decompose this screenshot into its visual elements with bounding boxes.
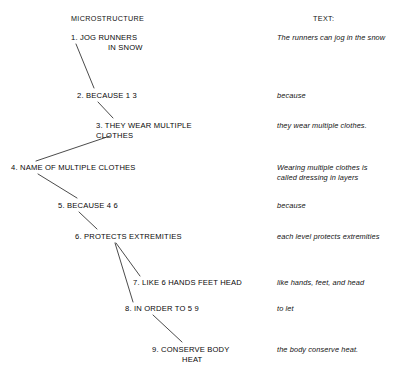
edge-4-5 <box>38 174 77 198</box>
node-9: 9. CONSERVE BODYHEAT <box>152 345 229 364</box>
node-8: 8. IN ORDER TO 5 9 <box>125 304 199 314</box>
node-6: 6. PROTECTS EXTREMITIES <box>75 232 182 242</box>
node-3-label-line2: CLOTHES <box>96 131 192 141</box>
node-4-label: 4. NAME OF MULTIPLE CLOTHES <box>11 163 136 172</box>
node-1-label-line2: IN SNOW <box>71 43 143 53</box>
node-5-label: 5. BECAUSE 4 6 <box>58 201 118 210</box>
node-1-label: 1. JOG RUNNERS <box>71 33 137 42</box>
gloss-7: like hands, feet, and head <box>277 278 364 288</box>
gloss-1-line1: The runners can jog in the snow <box>277 33 385 42</box>
edge-6-7 <box>116 243 140 276</box>
node-2-label: 2. BECAUSE 1 3 <box>77 91 137 100</box>
gloss-2: because <box>277 91 306 101</box>
node-9-label: 9. CONSERVE BODY <box>152 345 229 354</box>
gloss-1: The runners can jog in the snow <box>277 33 385 43</box>
node-9-label-line2: HEAT <box>152 355 229 365</box>
gloss-4: Wearing multiple clothes iscalled dressi… <box>277 163 367 183</box>
gloss-9: the body conserve heat. <box>277 345 358 355</box>
node-7: 7. LIKE 6 HANDS FEET HEAD <box>133 278 242 288</box>
node-3-label: 3. THEY WEAR MULTIPLE <box>96 121 192 130</box>
node-4: 4. NAME OF MULTIPLE CLOTHES <box>11 163 136 173</box>
node-2: 2. BECAUSE 1 3 <box>77 91 137 101</box>
microstructure-diagram: MICROSTRUCTURE TEXT: 1. JOG RUNNERSIN SN… <box>0 0 402 379</box>
gloss-7-line1: like hands, feet, and head <box>277 278 364 287</box>
node-5: 5. BECAUSE 4 6 <box>58 201 118 211</box>
gloss-4-line2: called dressing in layers <box>277 173 358 182</box>
gloss-2-line1: because <box>277 91 306 100</box>
gloss-6: each level protects extremities <box>277 232 380 242</box>
node-8-label: 8. IN ORDER TO 5 9 <box>125 304 199 313</box>
edge-5-6 <box>79 212 97 229</box>
node-3: 3. THEY WEAR MULTIPLECLOTHES <box>96 121 192 140</box>
node-1: 1. JOG RUNNERSIN SNOW <box>71 33 143 52</box>
edge-8-9 <box>153 315 182 342</box>
edge-6-8 <box>115 243 133 302</box>
column-header-microstructure: MICROSTRUCTURE <box>71 14 144 23</box>
gloss-5: because <box>277 201 306 211</box>
gloss-4-line1: Wearing multiple clothes is <box>277 163 367 172</box>
gloss-8-line1: to let <box>277 304 294 313</box>
gloss-3-line1: they wear multiple clothes. <box>277 121 367 130</box>
edge-2-3 <box>98 102 113 118</box>
gloss-8: to let <box>277 304 294 314</box>
connector-lines <box>0 0 402 379</box>
gloss-5-line1: because <box>277 201 306 210</box>
column-header-text: TEXT: <box>313 14 334 23</box>
gloss-9-line1: the body conserve heat. <box>277 345 358 354</box>
node-7-label: 7. LIKE 6 HANDS FEET HEAD <box>133 278 242 287</box>
node-6-label: 6. PROTECTS EXTREMITIES <box>75 232 182 241</box>
gloss-3: they wear multiple clothes. <box>277 121 367 131</box>
gloss-6-line1: each level protects extremities <box>277 232 380 241</box>
